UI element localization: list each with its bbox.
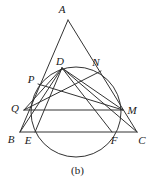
vertex-label-n: N <box>92 57 99 68</box>
vertex-label-f: F <box>111 135 118 146</box>
vertex-label-d: D <box>56 56 64 67</box>
vertex-label-a: A <box>59 4 66 15</box>
vertex-label-e: E <box>25 135 32 146</box>
vertex-label-b: B <box>8 134 15 145</box>
chord-DE <box>35 68 62 132</box>
geometry-diagram <box>0 0 155 184</box>
vertex-label-p: P <box>28 74 35 85</box>
figure-caption: (b) <box>0 164 155 177</box>
chord-DM <box>62 68 123 110</box>
chord-DB <box>20 68 62 132</box>
geometry-figure: ADNPQMBEFC (b) <box>0 0 155 184</box>
chord-QN <box>24 71 101 110</box>
vertex-label-c: C <box>138 135 145 146</box>
chord-DC <box>62 68 137 132</box>
vertex-label-q: Q <box>11 103 19 114</box>
vertex-label-m: M <box>127 105 136 116</box>
segments-layer <box>20 20 137 132</box>
